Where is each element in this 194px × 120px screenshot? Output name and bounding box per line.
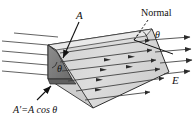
- projected-area-label: A′=A cos θ: [12, 104, 57, 115]
- flux-diagram-figure: θ A: [0, 0, 194, 120]
- projected-area-side: [48, 79, 76, 84]
- angle-inner-label: θ: [57, 63, 62, 74]
- angle-top-label: θ: [155, 29, 160, 40]
- projected-area-leader-line: [37, 86, 51, 100]
- normal-label: Normal: [141, 7, 172, 18]
- field-label-E: E: [171, 74, 179, 86]
- flux-diagram-svg: θ A: [0, 0, 194, 120]
- area-label: A: [75, 9, 83, 21]
